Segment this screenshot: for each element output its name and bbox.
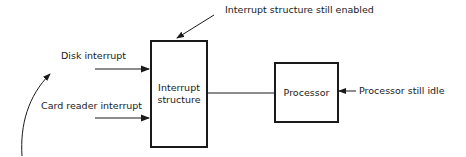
processor-idle-annotation: Processor still idle [359,86,445,96]
interrupt-structure-label-line1: Interrupt [157,82,200,94]
disk-interrupt-label: Disk interrupt [61,51,126,61]
interrupt-structure-label-line2: structure [157,94,200,106]
curved-time-arrow [22,74,50,156]
interrupt-structure-block: Interrupt structure [150,40,208,148]
interrupt-enabled-annotation: Interrupt structure still enabled [225,5,374,15]
processor-block: Processor [274,62,339,123]
enabled-annotation-arrow [177,15,214,38]
card-reader-interrupt-label: Card reader interrupt [41,101,142,111]
connector-layer [0,0,466,157]
processor-label: Processor [284,87,330,99]
